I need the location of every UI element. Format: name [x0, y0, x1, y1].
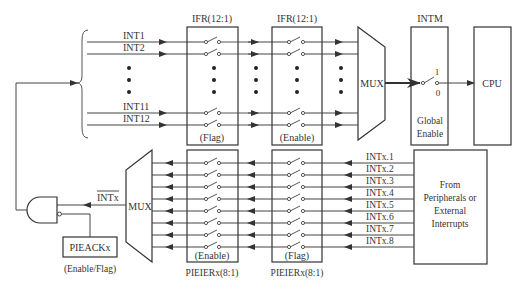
- intm-switch-on: 1: [435, 67, 440, 77]
- pieier-enable-label: (Enable): [195, 250, 229, 262]
- pieier-flag-label: (Flag): [285, 250, 309, 262]
- input-label-intx6: INTx.6: [366, 212, 394, 222]
- intm-switch-off: 0: [436, 88, 441, 98]
- intm-label-line1: Global: [417, 116, 443, 126]
- source-line3: External: [434, 206, 467, 216]
- ifr-enable-title: IFR(12:1): [277, 13, 317, 25]
- pieier-flag-switches: [287, 158, 304, 249]
- source-line1: From: [440, 180, 461, 190]
- input-label-int2: INT2: [123, 42, 145, 53]
- pieier-flag-title: PIEIERx(8:1): [271, 268, 324, 279]
- input-brace: [77, 30, 88, 138]
- input-label-intx4: INTx.4: [366, 188, 394, 198]
- pieier-flag-box: [272, 150, 322, 262]
- intm-switch: [421, 77, 438, 85]
- ellipsis-dots: [127, 66, 343, 94]
- input-label-intx7: INTx.7: [366, 224, 394, 234]
- top-mux-label: MUX: [360, 78, 384, 89]
- cpu-label: CPU: [482, 78, 502, 89]
- ifr-enable-switches: [287, 37, 304, 127]
- input-label-intx8: INTx.8: [366, 236, 394, 246]
- ifr-flag-box: [187, 27, 238, 145]
- ifr-flag-title: IFR(12:1): [192, 13, 232, 25]
- intm-title: INTM: [417, 13, 443, 24]
- source-line4: Interrupts: [432, 219, 469, 229]
- bottom-input-lines: [305, 163, 414, 247]
- input-label-intx3: INTx.3: [366, 176, 394, 186]
- input-label-int1: INT1: [123, 30, 145, 41]
- pieier-enable-box: [187, 150, 238, 262]
- feedback-line: [16, 83, 70, 210]
- pie-interrupt-diagram: INT1 INT2 INT11 INT12 IFR(12:1) (Flag) I…: [0, 0, 525, 292]
- input-label-int11: INT11: [123, 101, 149, 112]
- ifr-enable-box: [272, 27, 322, 145]
- ifr-flag-label: (Flag): [200, 132, 224, 144]
- input-label-int12: INT12: [123, 113, 150, 124]
- inverter-bubble: [58, 212, 62, 216]
- pieier-enable-switches: [204, 158, 220, 249]
- ifr-enable-label: (Enable): [280, 132, 314, 144]
- intm-label-line2: Enable: [417, 129, 443, 139]
- pieack-caption: (Enable/Flag): [64, 264, 116, 275]
- bottom-mux-label: MUX: [128, 201, 152, 212]
- intm-box: [411, 27, 448, 145]
- pieier-enable-title: PIEIERx(8:1): [186, 268, 239, 279]
- intx-signal-label: INTx: [97, 192, 119, 203]
- and-gate: [27, 197, 57, 223]
- pieack-label: PIEACKx: [69, 242, 110, 253]
- input-label-intx2: INTx.2: [366, 164, 394, 174]
- source-line2: Peripherals or: [423, 193, 477, 203]
- input-label-intx1: INTx.1: [366, 152, 394, 162]
- input-label-intx5: INTx.5: [366, 200, 394, 210]
